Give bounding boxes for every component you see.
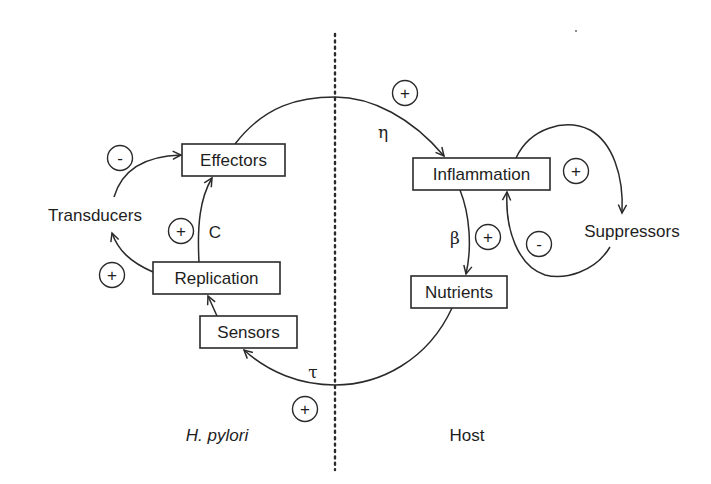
label-transducers: Transducers xyxy=(48,206,142,225)
minus-icon: - xyxy=(117,149,123,168)
sign-replication-to-transducers: + xyxy=(100,263,125,288)
plus-icon: + xyxy=(400,84,410,103)
edge-sensors-to-replication xyxy=(208,296,217,316)
node-inflammation: Inflammation xyxy=(413,158,550,190)
edge-inflammation-to-nutrients xyxy=(460,190,469,274)
node-nutrients: Nutrients xyxy=(411,276,507,308)
node-sensors-label: Sensors xyxy=(217,323,279,342)
sign-inflammation-to-suppressors: + xyxy=(564,159,589,184)
region-label-host: Host xyxy=(450,426,485,445)
sign-effectors-to-inflammation: + xyxy=(393,81,418,106)
node-sensors: Sensors xyxy=(200,316,297,348)
param-c: C xyxy=(209,223,221,242)
plus-icon: + xyxy=(107,266,117,285)
plus-icon: + xyxy=(571,162,581,181)
node-replication: Replication xyxy=(153,262,280,294)
sign-replication-to-effectors: + xyxy=(169,219,194,244)
hpylori-host-feedback-diagram: Effectors Replication Sensors Inflammati… xyxy=(0,0,711,484)
node-effectors: Effectors xyxy=(182,144,285,176)
node-effectors-label: Effectors xyxy=(200,151,267,170)
sign-suppressors-to-inflammation: - xyxy=(527,232,552,257)
sign-nutrients-to-sensors: + xyxy=(293,397,318,422)
param-eta: η xyxy=(378,122,388,142)
node-inflammation-label: Inflammation xyxy=(433,165,530,184)
plus-icon: + xyxy=(483,228,493,247)
stray-dot xyxy=(575,30,577,32)
sign-transducers-to-effectors: - xyxy=(108,146,133,171)
param-tau: τ xyxy=(308,362,317,382)
minus-icon: - xyxy=(536,235,542,254)
node-replication-label: Replication xyxy=(174,269,258,288)
param-beta: β xyxy=(450,228,460,248)
plus-icon: + xyxy=(176,222,186,241)
label-suppressors: Suppressors xyxy=(584,222,679,241)
sign-inflammation-to-nutrients: + xyxy=(476,225,501,250)
plus-icon: + xyxy=(300,400,310,419)
edge-replication-to-effectors xyxy=(198,178,212,262)
node-nutrients-label: Nutrients xyxy=(425,283,493,302)
region-label-hpylori: H. pylori xyxy=(186,426,250,445)
